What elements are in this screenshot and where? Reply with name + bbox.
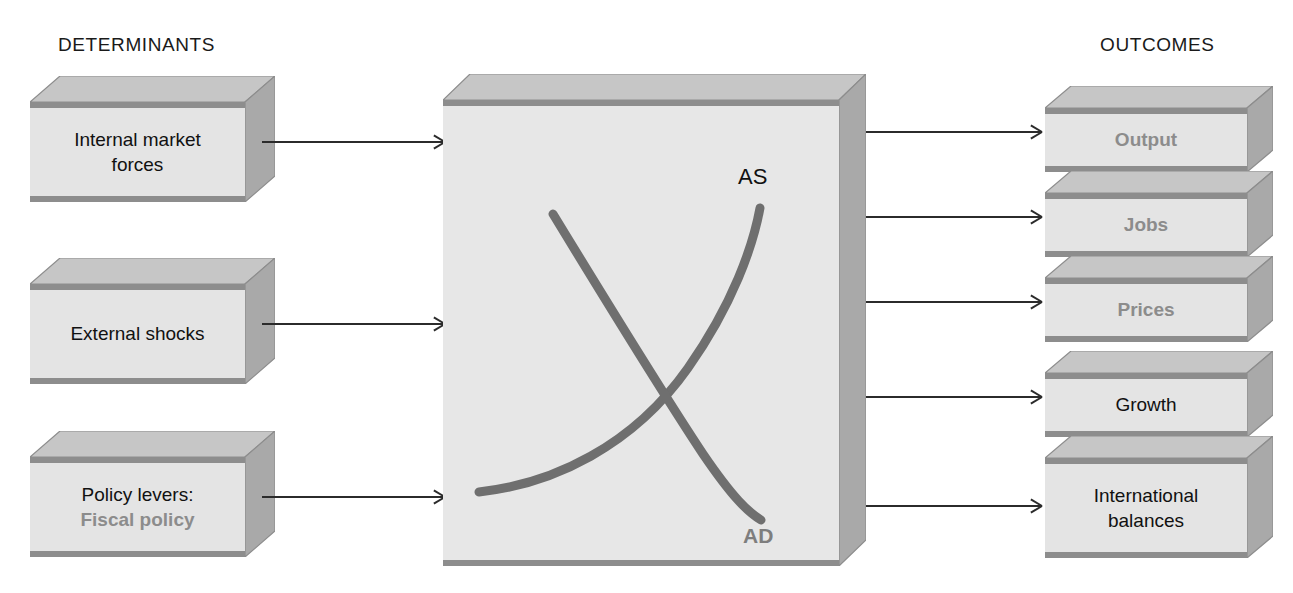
determinant-label-internal-market-forces: Internal market forces (66, 127, 209, 177)
outcome-box-jobs[interactable]: Jobs (1045, 171, 1273, 257)
box-front-face: Internal market forces (30, 102, 245, 202)
arrow-model-to-international-balances (866, 505, 1041, 507)
arrow-model-to-growth (866, 396, 1041, 398)
arrow-external-shocks-to-model (262, 323, 444, 325)
arrow-model-to-output (866, 131, 1041, 133)
as-curve-label: AS (738, 164, 767, 190)
outcome-box-prices[interactable]: Prices (1045, 256, 1273, 342)
ad-curve-path (553, 214, 761, 520)
arrow-policy-levers-to-model (262, 496, 444, 498)
outcome-label-international-balances: International balances (1086, 483, 1207, 533)
outcomes-header: OUTCOMES (1100, 34, 1215, 56)
as-ad-curve-plot (443, 106, 839, 572)
determinant-accent-fiscal-policy: Fiscal policy (80, 507, 194, 532)
determinant-box-policy-levers[interactable]: Policy levers: Fiscal policy (30, 431, 275, 557)
diagram-canvas: DETERMINANTS OUTCOMES Internal market fo… (0, 0, 1293, 593)
box-front-face: Prices (1045, 278, 1247, 342)
outcome-label-growth: Growth (1107, 392, 1184, 417)
ad-curve-label: AD (743, 524, 773, 548)
box-front-face: Output (1045, 108, 1247, 172)
determinant-label-policy-levers: Policy levers: Fiscal policy (72, 482, 202, 532)
outcome-box-growth[interactable]: Growth (1045, 351, 1273, 437)
determinant-box-internal-market-forces[interactable]: Internal market forces (30, 76, 275, 202)
box-front-face: International balances (1045, 458, 1247, 558)
macro-model-box[interactable]: AS AD (443, 74, 866, 566)
outcome-label-jobs: Jobs (1116, 212, 1176, 237)
determinant-label-external-shocks: External shocks (62, 321, 212, 346)
box-front-face: External shocks (30, 284, 245, 384)
determinants-header: DETERMINANTS (58, 34, 215, 56)
as-curve-path (479, 208, 760, 492)
box-front-face: Growth (1045, 373, 1247, 437)
outcome-label-output: Output (1107, 127, 1185, 152)
box-front-face: Policy levers: Fiscal policy (30, 457, 245, 557)
box-front-face: Jobs (1045, 193, 1247, 257)
arrow-model-to-prices (866, 301, 1041, 303)
determinant-box-external-shocks[interactable]: External shocks (30, 258, 275, 384)
outcome-label-prices: Prices (1109, 297, 1182, 322)
outcome-box-output[interactable]: Output (1045, 86, 1273, 172)
outcome-box-international-balances[interactable]: International balances (1045, 436, 1273, 558)
box-front-face: AS AD (443, 100, 839, 566)
arrow-model-to-jobs (866, 216, 1041, 218)
arrow-internal-market-forces-to-model (262, 141, 444, 143)
